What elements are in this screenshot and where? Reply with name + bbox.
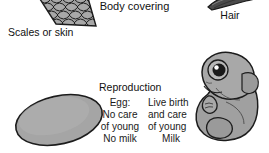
live-birth-line-4: Milk	[148, 133, 194, 145]
egg-line-2: No care	[96, 109, 144, 121]
live-birth-line-2: and care	[148, 109, 198, 121]
egg-line-3: of young	[96, 121, 144, 133]
egg-line-4: No milk	[96, 133, 144, 145]
live-birth-line-1: Live birth	[148, 97, 198, 109]
figure-canvas: Body covering	[0, 0, 269, 153]
scales-or-skin-label: Scales or skin	[8, 27, 73, 38]
egg-illustration	[12, 92, 106, 148]
egg-reproduction-column: Egg: No care of young No milk	[96, 97, 144, 145]
live-birth-reproduction-column: Live birth and care of young Milk	[148, 97, 198, 145]
reproduction-heading: Reproduction	[99, 82, 161, 93]
fetus-illustration	[186, 52, 269, 144]
egg-line-1: Egg:	[96, 97, 144, 109]
hair-label: Hair	[205, 10, 255, 21]
live-birth-line-3: of young	[148, 121, 198, 133]
